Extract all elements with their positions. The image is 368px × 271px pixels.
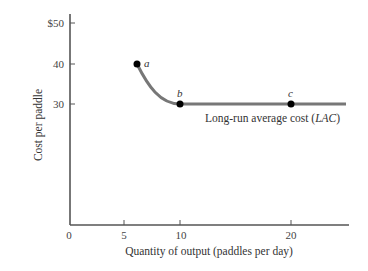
lac-chart: $50 40 30 0 5 10 20 Quantity of output (…	[0, 0, 368, 271]
x-tick-label-20: 20	[286, 229, 298, 241]
x-axis-title: Quantity of output (paddles per day)	[125, 245, 293, 258]
y-tick-label-40: 40	[53, 58, 65, 70]
y-axis-title: Cost per paddle	[32, 89, 45, 161]
x-tick-label-10: 10	[176, 229, 188, 241]
y-tick-label-50: $50	[48, 17, 65, 29]
x-tick-label-5: 5	[121, 229, 127, 241]
y-tick-label-30: 30	[53, 98, 65, 110]
lac-curve-label: Long-run average cost (LAC)	[205, 112, 340, 125]
point-c	[288, 101, 295, 108]
point-a	[134, 61, 141, 68]
point-b	[177, 101, 184, 108]
point-b-label: b	[177, 87, 183, 99]
point-a-label: a	[144, 57, 150, 69]
lac-curve	[137, 64, 346, 104]
x-tick-label-0: 0	[66, 229, 72, 241]
point-c-label: c	[288, 87, 293, 99]
